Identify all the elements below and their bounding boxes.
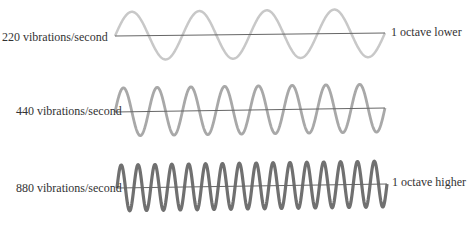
row-3-left-label: 880 vibrations/second — [16, 181, 122, 196]
row-3-right-label: 1 octave higher — [392, 175, 466, 190]
row-2-left-label: 440 vibrations/second — [16, 104, 122, 119]
row-1-left-label: 220 vibrations/second — [2, 30, 108, 45]
row-1-right-label: 1 octave lower — [391, 25, 462, 40]
